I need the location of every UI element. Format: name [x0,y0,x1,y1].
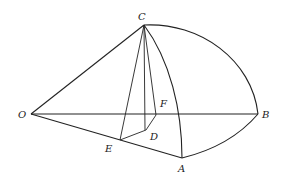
label-D: D [149,131,158,142]
geometry-figure: O C B A E D F [0,0,283,181]
segment-CF [144,25,156,115]
label-C: C [138,11,146,22]
segment-OC [31,25,144,114]
label-A: A [177,163,185,174]
arc-AB [182,114,258,158]
segment-CE [120,25,144,140]
label-F: F [159,98,168,109]
label-B: B [261,109,269,120]
label-O: O [18,109,26,120]
diagram-canvas: O C B A E D F [0,0,283,181]
label-E: E [104,143,113,154]
